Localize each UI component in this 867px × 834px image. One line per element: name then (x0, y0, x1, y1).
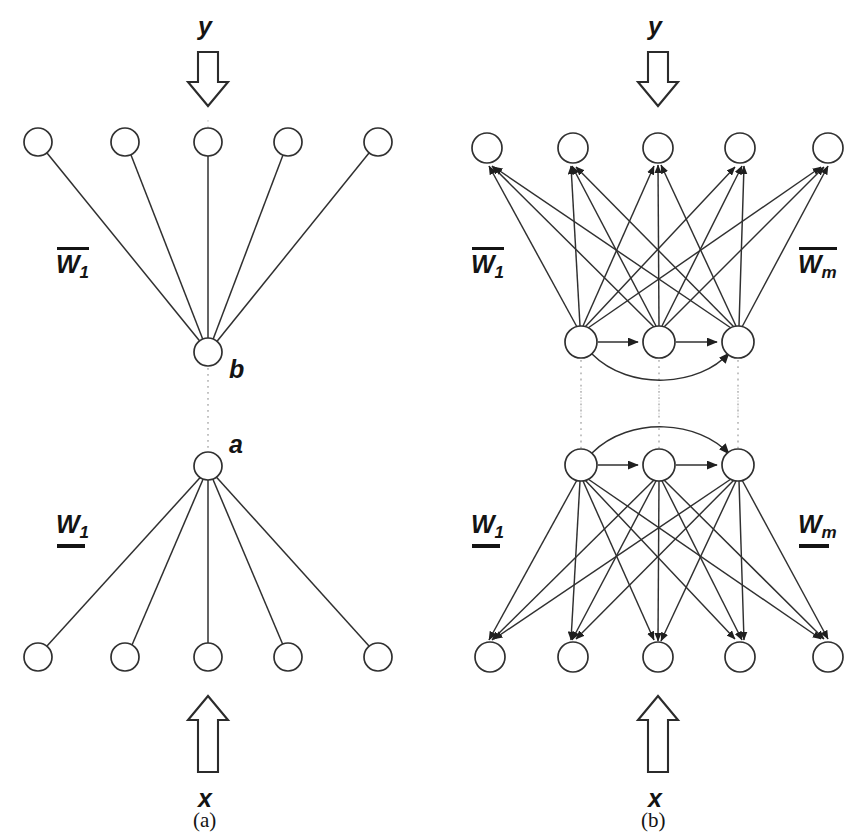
output-nodes-b (472, 133, 843, 163)
input-nodes-b (475, 642, 843, 672)
caption-a: (a) (193, 808, 216, 833)
input-arrow-b (638, 696, 678, 772)
lower-hidden-nodes-b (565, 449, 754, 481)
weight-label-wbar1-a: W1 (56, 247, 89, 281)
output-arrow-b (638, 52, 678, 106)
output-arrow-a (188, 52, 228, 106)
weight-label-wbarm-b: Wm (798, 247, 837, 281)
lower-weight-edges-a (47, 470, 369, 646)
weight-label-w1-b: W1 (471, 512, 504, 548)
weight-label-wm-b: Wm (798, 512, 837, 548)
output-label-b: y (648, 14, 662, 39)
output-nodes-a (24, 128, 392, 156)
hidden-node-b (194, 338, 222, 366)
output-label-a: y (198, 14, 212, 39)
node-label-b: b (229, 357, 244, 382)
upper-weight-edges-b (489, 165, 828, 328)
input-nodes-a (24, 643, 392, 671)
upper-weight-edges-a (47, 153, 369, 350)
weight-label-w1-a: W1 (56, 512, 89, 548)
dotted-links-b (581, 360, 738, 448)
upper-hidden-nodes-b (565, 326, 754, 358)
panel-a-group (24, 52, 392, 772)
figure-root: y x W1 W1 b a (a) y x W1 Wm W1 Wm (b) (0, 0, 867, 834)
weight-label-wbar1-b: W1 (471, 247, 504, 281)
underbar-glyph (472, 544, 500, 548)
node-label-a: a (229, 432, 243, 457)
lower-weight-edges-b (489, 479, 828, 641)
panel-b-group (472, 52, 843, 772)
underbar-glyph (799, 544, 829, 548)
underbar-glyph (57, 544, 85, 548)
hidden-node-a (194, 452, 222, 480)
input-arrow-a (188, 696, 228, 772)
network-diagram-svg (0, 0, 867, 834)
caption-b: (b) (641, 808, 666, 833)
